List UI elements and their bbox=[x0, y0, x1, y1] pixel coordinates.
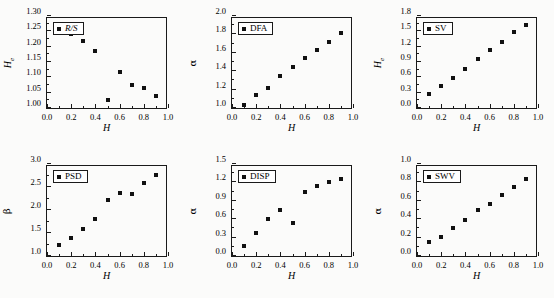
x-tick-minor bbox=[502, 106, 503, 108]
x-tick-label: 0.8 bbox=[508, 260, 519, 270]
data-point bbox=[266, 217, 270, 221]
y-tick-minor bbox=[417, 38, 419, 39]
y-tick-minor bbox=[47, 69, 49, 70]
y-axis-title-text: H bbox=[372, 61, 383, 68]
x-tick-label: 0.6 bbox=[114, 112, 125, 122]
x-tick-minor bbox=[59, 254, 60, 256]
x-tick-minor bbox=[268, 106, 269, 108]
x-tick bbox=[329, 252, 330, 256]
y-axis-title: α bbox=[372, 208, 383, 215]
legend-box: SV bbox=[423, 22, 453, 35]
x-tick-minor bbox=[502, 254, 503, 256]
y-axis-title-text: β bbox=[1, 208, 12, 214]
plot-frame: 0.00.20.40.60.81.00.00.30.60.91.21.5DISP bbox=[231, 165, 352, 257]
y-tick bbox=[232, 200, 236, 201]
data-point bbox=[278, 208, 282, 212]
data-point bbox=[463, 67, 467, 71]
y-tick-minor bbox=[417, 69, 419, 70]
y-axis-title: α bbox=[187, 208, 198, 215]
plot-frame: 0.00.20.40.60.81.00.00.30.60.91.21.51.8S… bbox=[416, 17, 537, 109]
plot-frame: 0.00.20.40.60.81.01.01.21.41.61.82.0DFA bbox=[231, 17, 352, 109]
x-tick bbox=[441, 252, 442, 256]
x-tick-minor bbox=[132, 254, 133, 256]
y-tick-label: 0.0 bbox=[400, 246, 411, 256]
x-tick bbox=[71, 104, 72, 108]
data-point bbox=[81, 227, 85, 231]
data-point bbox=[242, 244, 246, 248]
data-point bbox=[130, 192, 134, 196]
y-tick-minor bbox=[417, 53, 419, 54]
data-point bbox=[303, 56, 307, 60]
data-point bbox=[512, 30, 516, 34]
x-tick-minor bbox=[526, 254, 527, 256]
y-tick-label: 1.5 bbox=[400, 21, 411, 31]
plot-area: 0.00.20.40.60.81.00.00.30.60.91.21.51.8S… bbox=[417, 18, 536, 108]
x-tick-label: 0.0 bbox=[412, 112, 423, 122]
data-point bbox=[154, 94, 158, 98]
legend-box: PSD bbox=[53, 170, 88, 183]
x-tick-minor bbox=[156, 254, 157, 256]
x-tick-minor bbox=[108, 254, 109, 256]
legend-marker-icon bbox=[242, 175, 246, 179]
x-tick-label: 0.4 bbox=[90, 260, 101, 270]
y-tick bbox=[232, 163, 236, 164]
y-tick-minor bbox=[232, 246, 234, 247]
data-point bbox=[93, 49, 97, 53]
x-tick-label: 1.0 bbox=[348, 260, 359, 270]
data-point bbox=[439, 235, 443, 239]
x-tick-label: 0.8 bbox=[508, 112, 519, 122]
x-tick-label: 0.4 bbox=[460, 260, 471, 270]
legend-label: PSD bbox=[65, 172, 82, 181]
plot-area: 0.00.20.40.60.81.00.00.30.60.91.21.5DISP bbox=[232, 166, 351, 256]
panel-psd: βH0.00.20.40.60.81.01.01.52.02.53.0PSD bbox=[0, 148, 184, 297]
x-tick-label: 0.2 bbox=[66, 260, 77, 270]
legend-marker-icon bbox=[57, 175, 61, 179]
x-tick-label: 1.0 bbox=[163, 260, 174, 270]
x-tick bbox=[280, 104, 281, 108]
legend-marker-icon bbox=[427, 27, 431, 31]
y-tick-label: 1.30 bbox=[26, 6, 41, 16]
x-tick bbox=[305, 104, 306, 108]
legend-label: DISP bbox=[250, 172, 270, 181]
x-tick-minor bbox=[108, 106, 109, 108]
y-tick bbox=[417, 181, 421, 182]
plot-frame: 0.00.20.40.60.81.01.001.051.101.151.201.… bbox=[46, 17, 167, 109]
y-tick-minor bbox=[417, 191, 419, 192]
x-tick-label: 1.0 bbox=[533, 112, 544, 122]
data-point bbox=[439, 84, 443, 88]
y-tick-minor bbox=[417, 99, 419, 100]
y-tick-label: 1.8 bbox=[400, 6, 411, 16]
plot-area: 0.00.20.40.60.81.01.01.52.02.53.0PSD bbox=[47, 166, 166, 256]
panel-sv: HeH0.00.20.40.60.81.00.00.30.60.91.21.51… bbox=[370, 0, 554, 149]
y-axis-title: β bbox=[1, 208, 12, 214]
data-point bbox=[106, 198, 110, 202]
x-tick-label: 0.0 bbox=[42, 112, 53, 122]
data-point bbox=[327, 180, 331, 184]
data-point bbox=[327, 40, 331, 44]
x-tick-minor bbox=[83, 254, 84, 256]
x-tick-minor bbox=[83, 106, 84, 108]
y-tick-minor bbox=[232, 43, 234, 44]
y-tick-label: 0.3 bbox=[215, 228, 226, 238]
y-tick-label: 1.00 bbox=[26, 98, 41, 108]
data-point bbox=[512, 185, 516, 189]
x-tick-label: 0.0 bbox=[42, 260, 53, 270]
y-tick-label: 0.6 bbox=[400, 67, 411, 77]
y-tick-label: 1.5 bbox=[215, 154, 226, 164]
y-tick bbox=[417, 92, 421, 93]
data-point bbox=[451, 76, 455, 80]
x-tick-label: 0.8 bbox=[323, 260, 334, 270]
data-point bbox=[57, 243, 61, 247]
x-axis-title: H bbox=[46, 270, 167, 281]
data-point bbox=[93, 217, 97, 221]
y-tick-label: 1.2 bbox=[215, 80, 226, 90]
y-tick-minor bbox=[417, 209, 419, 210]
x-tick bbox=[168, 104, 169, 108]
x-axis-title: H bbox=[231, 122, 352, 133]
y-tick bbox=[232, 255, 236, 256]
y-tick bbox=[47, 255, 51, 256]
x-tick-minor bbox=[156, 106, 157, 108]
x-axis-title: H bbox=[231, 270, 352, 281]
y-tick-minor bbox=[47, 53, 49, 54]
x-tick bbox=[538, 104, 539, 108]
